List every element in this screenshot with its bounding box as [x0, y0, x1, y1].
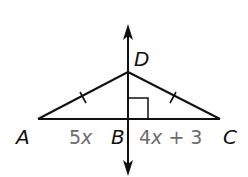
label-D: D — [134, 47, 149, 71]
right-angle-mark — [128, 98, 148, 119]
segment-AD — [38, 72, 128, 119]
label-C: C — [223, 125, 237, 149]
measure-AB: 5x — [69, 126, 93, 148]
label-B: B — [111, 125, 125, 149]
label-A: A — [14, 125, 30, 149]
measure-BC: 4x + 3 — [139, 126, 202, 148]
geometry-diagram: A B C D 5x 4x + 3 — [0, 0, 248, 177]
